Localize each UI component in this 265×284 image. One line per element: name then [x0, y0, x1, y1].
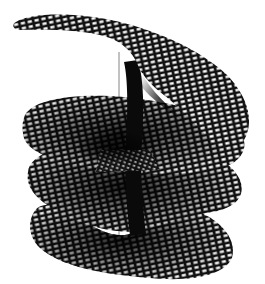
figure-canvas [0, 0, 265, 284]
core-shadow [78, 132, 158, 164]
helicoid-surface-figure [0, 0, 265, 284]
